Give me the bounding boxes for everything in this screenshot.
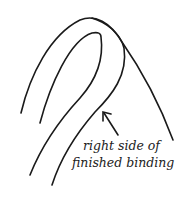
outer-fold-curve bbox=[21, 18, 173, 140]
annotation-label-line2: finished binding bbox=[72, 155, 174, 170]
binding-illustration bbox=[0, 0, 189, 200]
pointer-arrow-shaft bbox=[104, 113, 118, 135]
binding-diagram: right side of finished binding bbox=[0, 0, 189, 200]
annotation-label-line1: right side of bbox=[83, 138, 160, 153]
